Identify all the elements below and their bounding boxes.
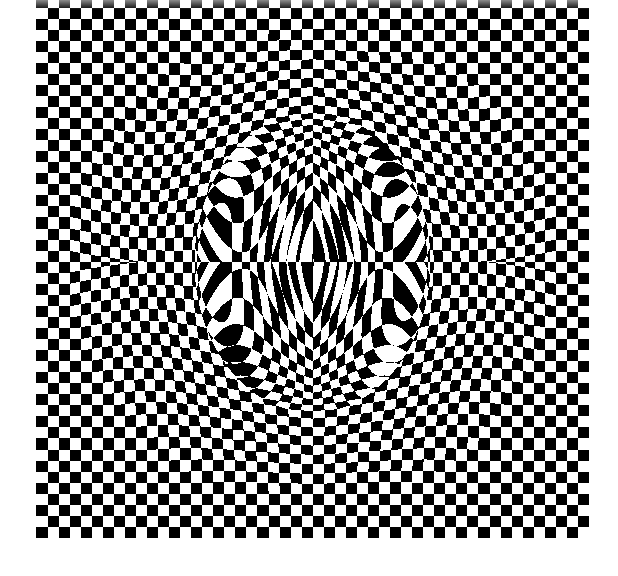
op-art-canvas-container: Op-art checkerboard sphere illusion [0, 0, 618, 576]
checkerboard-illusion-canvas [0, 0, 618, 576]
